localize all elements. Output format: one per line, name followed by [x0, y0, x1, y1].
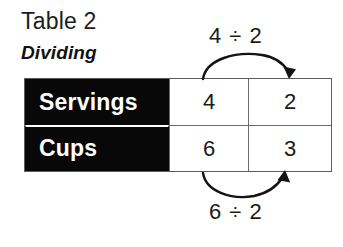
- table-cell-cups-2: 3: [248, 125, 331, 171]
- annotation-expression-top: 4 ÷ 2: [209, 25, 263, 47]
- divide-arrow-bottom-icon: [203, 170, 290, 197]
- divide-arrow-top-icon: [203, 54, 296, 79]
- table-figure: Table 2 Dividing Servings 4 2 Cups 6 3 4…: [0, 0, 343, 247]
- figure-subtitle: Dividing: [21, 43, 97, 62]
- figure-title: Table 2: [21, 10, 97, 33]
- table-row-header-servings: Servings: [25, 79, 169, 125]
- table-cell-servings-1: 4: [169, 79, 248, 125]
- table-row-header-cups: Cups: [25, 125, 169, 171]
- table-cell-servings-2: 2: [248, 79, 331, 125]
- data-table: Servings 4 2 Cups 6 3: [24, 78, 332, 172]
- table-cell-cups-1: 6: [169, 125, 248, 171]
- annotation-expression-bottom: 6 ÷ 2: [209, 201, 263, 223]
